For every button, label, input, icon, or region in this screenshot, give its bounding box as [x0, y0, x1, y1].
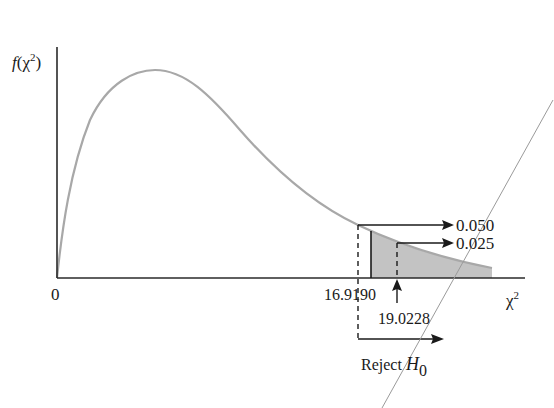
- alpha-label-025: 0.025: [456, 234, 494, 253]
- reject-h0-label: Reject H0: [361, 354, 427, 379]
- critical-value-label-1: 16.9190: [324, 286, 376, 303]
- arrow-right-icon: [358, 334, 444, 344]
- density-curve: [57, 70, 492, 278]
- x-axis-label: χ2: [505, 289, 519, 310]
- alpha-label-050: 0.050: [456, 216, 494, 235]
- critical-value-label-2: 19.0228: [378, 310, 430, 327]
- chi-square-diagram: f(χ2) 0 χ2 16.9190 19.0228 0.050 0.025 R…: [0, 0, 554, 408]
- origin-label: 0: [51, 285, 60, 304]
- arrow-up-icon: [392, 279, 402, 303]
- y-axis-label: f(χ2): [12, 51, 41, 72]
- arrow-right-icon: [358, 220, 454, 230]
